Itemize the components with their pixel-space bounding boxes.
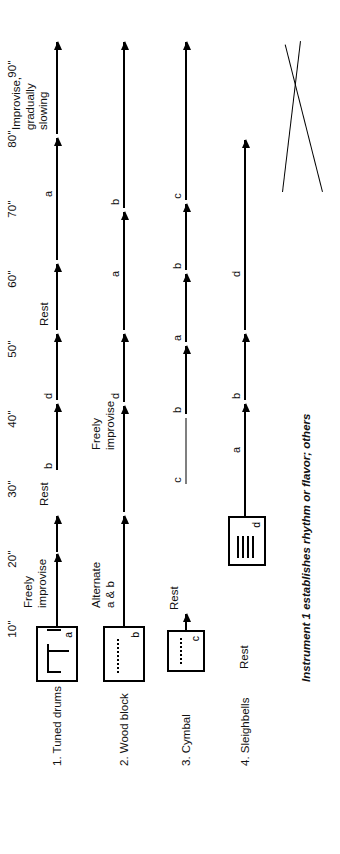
annotation-r1-rest-1: Rest	[38, 482, 52, 506]
segment-arrow-r2-s5	[123, 42, 125, 208]
segment-letter-r1-a: a	[42, 191, 54, 197]
segment-arrow-r2-s4	[123, 212, 125, 330]
notation-box-letter-a: a	[62, 632, 74, 638]
time-tick-10: 10"	[6, 620, 18, 637]
notation-box-wood-block: b	[103, 626, 145, 682]
row-label-sleighbells: 4. Sleighbells	[239, 698, 251, 766]
segment-arrow-r2-s1	[123, 516, 125, 626]
segment-letter-r2-b: b	[109, 199, 121, 205]
tremolo-icon	[237, 536, 255, 558]
segment-letter-r4-d: d	[230, 271, 242, 277]
segment-letter-r1-b: b	[42, 463, 54, 469]
row-label-tuned-drums: 1. Tuned drums	[51, 686, 63, 766]
time-tick-30: 30"	[6, 480, 18, 497]
dotted-roll-icon	[117, 639, 119, 673]
notation-box-tuned-drums: a	[36, 626, 78, 682]
segment-arrow-r1-s3	[56, 404, 58, 470]
time-tick-20: 20"	[6, 550, 18, 567]
segment-arrow-r4-s2	[244, 334, 246, 400]
segment-line-r3-c	[186, 418, 187, 484]
segment-arrow-r1-s2	[56, 516, 58, 552]
annotation-r1-improvise-slowing: Improvise, gradually slowing	[10, 77, 51, 130]
segment-letter-r4-a: a	[230, 447, 242, 453]
row-label-cymbal: 3. Cymbal	[180, 714, 192, 766]
segment-letter-r4-b: b	[230, 393, 242, 399]
crescendo-hairpin-icon	[282, 40, 328, 192]
segment-arrow-r1-s5	[56, 264, 58, 330]
time-tick-70: 70"	[6, 200, 18, 217]
annotation-r2-freely-improvise: Freely improvise	[90, 401, 117, 450]
annotation-r4-rest: Rest	[238, 645, 252, 669]
segment-letter-r1-d: d	[42, 393, 54, 399]
segment-arrow-r1-s7	[56, 42, 58, 134]
segment-letter-r3-b2: b	[171, 263, 183, 269]
row-label-wood-block: 2. Wood block	[118, 693, 130, 766]
segment-arrow-r3-s6	[185, 42, 187, 200]
segment-letter-r2-a: a	[109, 271, 121, 277]
notation-box-letter-c: c	[189, 636, 201, 641]
time-tick-80: 80"	[6, 130, 18, 147]
notation-box-letter-d: d	[250, 522, 262, 528]
segment-letter-r3-c1: c	[171, 477, 183, 483]
segment-arrow-r4-s1	[244, 404, 246, 516]
score-figure: 10" 20" 30" 40" 50" 60" 70" 80" 90" 1. T…	[0, 0, 340, 854]
annotation-r2-alternate-ab: Alternate a & b	[90, 562, 117, 608]
segment-arrow-r2-s3	[123, 334, 125, 402]
notation-box-cymbal: c	[167, 630, 205, 672]
notation-box-sleighbells: d	[228, 516, 266, 566]
segment-arrow-r1-s4	[56, 334, 58, 400]
segment-arrow-r1-s1	[56, 554, 58, 626]
segment-arrow-r3-s4	[185, 274, 187, 342]
segment-arrow-r3-s3	[185, 346, 187, 414]
figure-canvas: 10" 20" 30" 40" 50" 60" 70" 80" 90" 1. T…	[0, 0, 340, 854]
segment-letter-r3-b1: b	[171, 407, 183, 413]
time-tick-90: 90"	[6, 60, 18, 77]
time-tick-50: 50"	[6, 340, 18, 357]
beamed-notes-icon	[45, 644, 70, 673]
time-tick-40: 40"	[6, 410, 18, 427]
segment-arrow-r3-s5	[185, 204, 187, 270]
time-tick-60: 60"	[6, 270, 18, 287]
segment-letter-r2-d: d	[109, 393, 121, 399]
segment-arrow-r2-s2	[123, 406, 125, 512]
annotation-r1-freely-improvise: Freely improvise	[22, 559, 49, 608]
segment-arrow-r3-s1	[185, 614, 187, 630]
segment-arrow-r4-s3	[244, 140, 246, 330]
segment-letter-r3-c2: c	[171, 193, 183, 199]
annotation-r1-rest-2: Rest	[38, 302, 52, 326]
figure-caption: Instrument 1 establishes rhythm or flavo…	[300, 414, 312, 682]
segment-letter-r3-a: a	[171, 335, 183, 341]
notation-box-letter-b: b	[129, 632, 141, 638]
annotation-r3-rest: Rest	[168, 586, 182, 610]
dotted-roll-icon	[180, 638, 182, 664]
segment-arrow-r1-s6	[56, 138, 58, 260]
